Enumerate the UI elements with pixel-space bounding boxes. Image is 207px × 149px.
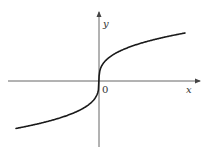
y-axis-label: y — [102, 18, 109, 29]
origin-label: 0 — [102, 84, 108, 95]
x-axis-label: x — [186, 84, 192, 95]
function-plot: y x 0 — [0, 0, 207, 149]
